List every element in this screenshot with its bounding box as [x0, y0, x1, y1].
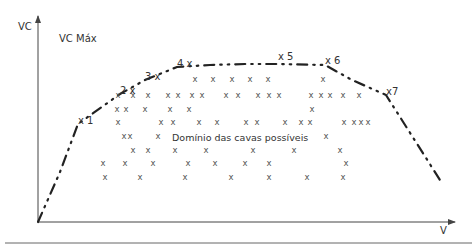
cavity-mark: x [358, 117, 363, 127]
cavity-mark: x [250, 145, 255, 155]
cavity-mark: x [145, 90, 150, 100]
cavity-mark: x [100, 158, 105, 168]
point-1-label: x 1 [78, 115, 93, 126]
cavity-mark: x [214, 117, 219, 127]
cavity-mark: x [196, 117, 201, 127]
cavity-mark: x [320, 74, 325, 84]
cavity-mark: x [172, 145, 177, 155]
cavity-mark: x [254, 117, 259, 127]
cavity-mark: x [247, 74, 252, 84]
cavity-mark: x [265, 74, 270, 84]
cavity-mark: x [323, 131, 328, 141]
cavity-mark: x [228, 172, 233, 182]
cavity-mark: x [343, 158, 348, 168]
cavity-mark: x [210, 74, 215, 84]
cavity-mark: x [308, 90, 313, 100]
cavity-mark: x [341, 117, 346, 127]
cavity-mark: x [165, 90, 170, 100]
cavity-mark: x [282, 117, 287, 127]
cavity-mark: x [307, 117, 312, 127]
cavity-mark: x [212, 158, 217, 168]
cavity-mark: x [304, 172, 309, 182]
point-5-label: x 5 [278, 51, 293, 62]
cavity-mark: x [182, 172, 187, 182]
cavity-mark: x [121, 131, 126, 141]
cavity-mark: x [266, 172, 271, 182]
cavity-mark: x [223, 90, 228, 100]
cavity-mark: x [122, 158, 127, 168]
cavity-mark: x [229, 74, 234, 84]
cavity-mark: x [158, 117, 163, 127]
cavity-mark: x [199, 90, 204, 100]
cavity-mark: x [123, 104, 128, 114]
cavity-mark: x [150, 158, 155, 168]
cavity-mark: x [102, 172, 107, 182]
cavity-mark: x [189, 90, 194, 100]
cavity-mark: x [192, 74, 197, 84]
cavity-mark: x [356, 90, 361, 100]
cavity-mark: x [242, 158, 247, 168]
cavity-mark: x [266, 90, 271, 100]
cavity-mark: x [127, 131, 132, 141]
cavity-mark: x [255, 90, 260, 100]
point-7-label: x7 [386, 86, 398, 97]
cavity-mark: x [266, 158, 271, 168]
cavity-mark: x [340, 172, 345, 182]
region-label: Domínio das cavas possíveis [172, 132, 308, 143]
cavity-mark: x [155, 131, 160, 141]
cavity-mark: x [130, 145, 135, 155]
x-axis-label: V [440, 225, 447, 236]
diagram-canvas: VC V VC Máx xxxxxxxxxxxxxxxxxxxxxxxxxxxx… [0, 0, 476, 250]
cavity-mark: x [327, 90, 332, 100]
cavity-mark: x [167, 104, 172, 114]
cavity-mark: x [309, 104, 314, 114]
cavity-mark: x [337, 145, 342, 155]
vc-max-label: VC Máx [59, 33, 97, 44]
cavity-mark: x [291, 145, 296, 155]
numbered-points: x 12 x3 x4 xx 5x 6x7 [78, 51, 398, 126]
cavity-mark: x [175, 90, 180, 100]
cavity-mark: x [318, 90, 323, 100]
cavity-mark: x [185, 158, 190, 168]
cavity-mark: x [298, 117, 303, 127]
possible-cavities-marks: xxxxxxxxxxxxxxxxxxxxxxxxxxxxxxxxxxxxxxxx… [100, 74, 370, 182]
cavity-mark: x [137, 172, 142, 182]
y-axis-label: VC [18, 21, 32, 32]
vc-max-curve [38, 64, 440, 222]
cavity-mark: x [276, 90, 281, 100]
cavity-mark: x [145, 145, 150, 155]
point-4-label: 4 x [177, 58, 193, 69]
point-6-label: x 6 [325, 55, 340, 66]
cavity-mark: x [235, 90, 240, 100]
cavity-mark: x [142, 104, 147, 114]
cavity-mark: x [186, 104, 191, 114]
cavity-mark: x [243, 117, 248, 127]
cavity-mark: x [114, 104, 119, 114]
point-2-label: 2 x [120, 85, 136, 96]
cavity-mark: x [351, 117, 356, 127]
point-3-label: 3 x [145, 71, 161, 82]
cavity-mark: x [203, 145, 208, 155]
cavity-mark: x [170, 117, 175, 127]
cavity-mark: x [115, 117, 120, 127]
cavity-mark: x [365, 117, 370, 127]
cavity-mark: x [340, 90, 345, 100]
